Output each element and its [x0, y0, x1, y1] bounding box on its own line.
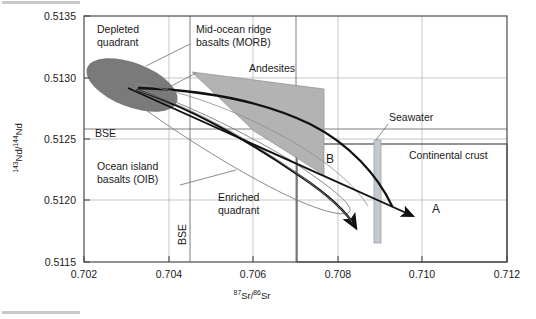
chart-canvas: 0.702 0.704 0.706 0.708 0.710 0.712 0.51… — [0, 0, 536, 319]
x-tick-label-3: 0.708 — [325, 268, 351, 280]
y-tick-label-4: 0.5115 — [45, 256, 76, 268]
label-morb-line1: Mid-ocean ridge — [196, 23, 271, 35]
label-enriched-quadrant-line1: Enriched — [218, 191, 260, 203]
x-title-post: Sr — [261, 290, 271, 301]
y-tick-label-3: 0.5120 — [44, 194, 76, 206]
label-bse-vertical: BSE — [176, 224, 188, 245]
x-title-pre: Sr/ — [241, 290, 254, 301]
label-morb-line2: basalts (MORB) — [196, 36, 271, 48]
y-tick-label-1: 0.5130 — [44, 72, 76, 84]
x-tick-label-1: 0.704 — [156, 268, 182, 280]
label-continental-crust: Continental crust — [409, 149, 488, 161]
y-tick-label-0: 0.5135 — [44, 10, 76, 22]
y-title-pre: Nd/ — [13, 146, 24, 161]
x-tick-label-5: 0.712 — [494, 268, 520, 280]
seawater-band — [374, 140, 381, 243]
x-tick-label-0: 0.702 — [71, 268, 97, 280]
y-tick-label-2: 0.5125 — [44, 133, 76, 145]
label-seawater: Seawater — [389, 111, 434, 123]
label-trend-a: A — [432, 202, 440, 216]
x-tick-label-2: 0.706 — [240, 268, 266, 280]
svg-text:BSE: BSE — [176, 224, 188, 245]
label-trend-b: B — [326, 152, 334, 166]
svg-text:143Nd/144Nd: 143Nd/144Nd — [12, 123, 24, 173]
y-title-sup-2: 144 — [12, 135, 19, 147]
label-oib-line2: basalts (OIB) — [97, 173, 158, 185]
label-enriched-quadrant-line2: quadrant — [218, 204, 260, 216]
figure-root: 0.702 0.704 0.706 0.708 0.710 0.712 0.51… — [0, 0, 536, 319]
label-andesites: Andesites — [249, 62, 295, 74]
label-depleted-quadrant-line2: quadrant — [97, 36, 139, 48]
label-depleted-quadrant-line1: Depleted — [97, 23, 139, 35]
y-title-post: Nd — [13, 123, 24, 135]
x-tick-label-4: 0.710 — [409, 268, 435, 280]
y-axis-title: 143Nd/144Nd — [12, 123, 24, 173]
y-title-sup-1: 143 — [12, 161, 19, 173]
label-bse-horizontal: BSE — [95, 127, 116, 139]
label-oib-line1: Ocean island — [97, 160, 158, 172]
x-axis-title: 87Sr/86Sr — [234, 289, 271, 301]
